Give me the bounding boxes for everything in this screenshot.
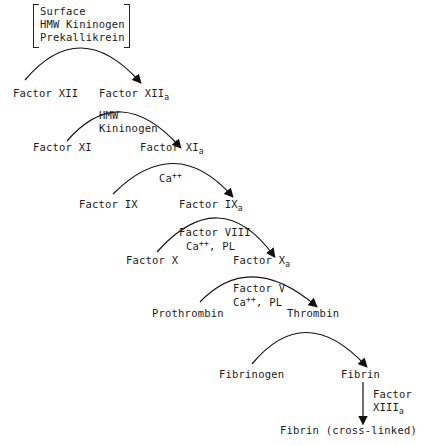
- factor-xii: Factor XII: [13, 87, 78, 99]
- factor-xiia: Factor XIIa: [99, 87, 169, 104]
- thrombin: Thrombin: [287, 307, 339, 319]
- fibrinogen: Fibrinogen: [219, 368, 284, 380]
- initiator-surface: Surface: [40, 5, 86, 17]
- cofactor-kininogen: Kininogen: [99, 122, 158, 134]
- initiator-bracket-right: [124, 4, 130, 48]
- fibrin-cross-linked: Fibrin (cross-linked): [280, 424, 417, 436]
- factor-x: Factor X: [126, 254, 178, 266]
- cofactor-ca-pl-2: Ca++, PL: [233, 294, 282, 308]
- factor-ixa: Factor IXa: [179, 198, 243, 215]
- enzyme-xiiia: XIIIa: [373, 401, 404, 418]
- arrow-xii: [25, 48, 140, 82]
- arrow-fibrinogen: [252, 332, 366, 366]
- cofactor-ca: Ca++: [159, 170, 182, 184]
- initiator-prekallikrein: Prekallikrein: [40, 31, 125, 43]
- factor-xi: Factor XI: [33, 141, 92, 153]
- enzyme-factor: Factor: [373, 388, 412, 400]
- factor-xia: Factor XIa: [140, 141, 204, 158]
- factor-ix: Factor IX: [79, 198, 138, 210]
- cofactor-factor-viii: Factor VIII: [179, 226, 251, 238]
- factor-xa: Factor Xa: [233, 254, 290, 271]
- cofactor-hmw: HMW: [99, 109, 119, 121]
- initiator-bracket-left: [33, 4, 39, 48]
- cofactor-factor-v: Factor V: [233, 282, 285, 294]
- fibrin: Fibrin: [341, 368, 380, 380]
- cofactor-ca-pl-1: Ca++, PL: [186, 238, 235, 252]
- initiator-hmw-kininogen: HMW Kininogen: [40, 18, 125, 30]
- prothrombin: Prothrombin: [152, 307, 224, 319]
